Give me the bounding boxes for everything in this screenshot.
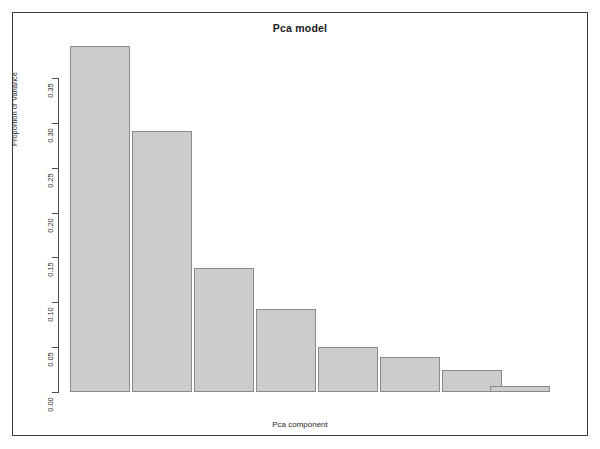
bar-1 bbox=[70, 46, 130, 392]
y-axis-tick-label-text: 0.30 bbox=[46, 122, 55, 148]
bar-5 bbox=[318, 347, 378, 392]
y-axis-tick-label: 0.15 bbox=[24, 252, 50, 262]
y-axis-tick-label-text: 0.15 bbox=[46, 257, 55, 283]
y-axis-tick-label-text: 0.00 bbox=[46, 392, 55, 418]
y-axis-tick-label: 0.25 bbox=[24, 163, 50, 173]
y-axis-tick-label-text: 0.10 bbox=[46, 302, 55, 328]
y-axis-tick-label-text: 0.35 bbox=[46, 78, 55, 104]
y-axis-line bbox=[58, 78, 59, 393]
bar-chart: Pca model Proportion of Variance Pca com… bbox=[0, 0, 600, 449]
screenshot-root: Pca model Proportion of Variance Pca com… bbox=[0, 0, 600, 449]
page-title: Pca model bbox=[0, 22, 600, 34]
y-axis-tick-label: 0.00 bbox=[24, 387, 50, 397]
y-axis-tick-label: 0.05 bbox=[24, 342, 50, 352]
bar-8 bbox=[490, 386, 550, 392]
x-axis-label: Pca component bbox=[0, 420, 600, 429]
y-axis-tick-label: 0.35 bbox=[24, 73, 50, 83]
y-axis-tick-label: 0.20 bbox=[24, 208, 50, 218]
bar-2 bbox=[132, 131, 192, 392]
y-axis-tick-label-text: 0.05 bbox=[46, 347, 55, 373]
y-axis-tick-label-text: 0.20 bbox=[46, 212, 55, 238]
y-axis-label: Proportion of Variance bbox=[10, 49, 24, 169]
y-axis-tick-label: 0.10 bbox=[24, 297, 50, 307]
bar-3 bbox=[194, 268, 254, 392]
y-axis-tick-label-text: 0.25 bbox=[46, 167, 55, 193]
bar-4 bbox=[256, 309, 316, 392]
y-axis-tick-label: 0.30 bbox=[24, 118, 50, 128]
bar-6 bbox=[380, 357, 440, 392]
